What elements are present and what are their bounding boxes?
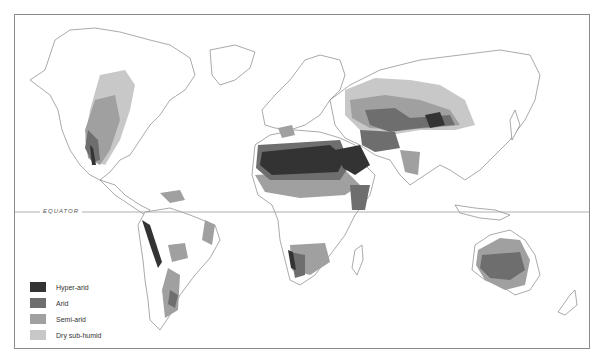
legend-label: Arid (56, 300, 68, 307)
swatch-hyper-arid (30, 282, 46, 292)
zone-arid-horn (350, 185, 370, 210)
legend-label: Hyper-arid (56, 284, 89, 291)
europe (262, 55, 345, 130)
new-zealand (558, 290, 577, 315)
legend-item-hyper-arid: Hyper-arid (30, 279, 102, 295)
legend-label: Semi-arid (56, 316, 86, 323)
madagascar (352, 245, 363, 275)
equator-label: EQUATOR (40, 208, 82, 214)
legend-item-dry-sub-humid: Dry sub-humid (30, 327, 102, 343)
legend-item-arid: Arid (30, 295, 102, 311)
indonesia (455, 205, 510, 220)
zone-semi-arid-venezuela (160, 190, 185, 203)
legend-label: Dry sub-humid (56, 332, 102, 339)
legend: Hyper-arid Arid Semi-arid Dry sub-humid (30, 279, 102, 343)
swatch-dry-sub-humid (30, 330, 46, 340)
greenland (210, 45, 255, 85)
swatch-arid (30, 298, 46, 308)
swatch-semi-arid (30, 314, 46, 324)
central-america (100, 180, 150, 215)
legend-item-semi-arid: Semi-arid (30, 311, 102, 327)
